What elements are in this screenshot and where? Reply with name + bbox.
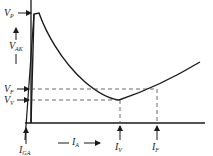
characteristic-curve: [31, 13, 200, 123]
if-label: IF: [151, 141, 159, 153]
characteristic-diagram: VP VAK VF VV IGA IA IV IF: [0, 0, 213, 156]
iv-label: IV: [114, 141, 123, 153]
iga-label: IGA: [18, 144, 31, 156]
ia-label: IA: [71, 136, 79, 148]
vv-label: VV: [4, 94, 15, 106]
vp-label: VP: [4, 7, 14, 19]
vak-label: VAK: [9, 40, 24, 52]
